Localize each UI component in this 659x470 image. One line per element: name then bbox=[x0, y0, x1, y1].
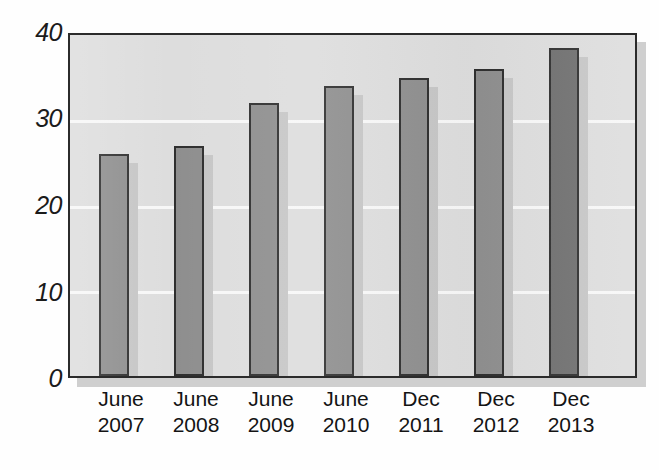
x-axis-label-line1: Dec bbox=[518, 386, 624, 412]
bar-june-2010[interactable] bbox=[324, 86, 354, 376]
x-axis-label-line2: 2013 bbox=[518, 412, 624, 438]
bar-june-2007[interactable] bbox=[99, 154, 129, 376]
y-axis-tick-30: 30 bbox=[16, 106, 62, 131]
x-axis-label-dec-2013: Dec 2013 bbox=[518, 386, 624, 439]
bar-dec-2012[interactable] bbox=[474, 69, 504, 376]
y-axis-tick-0: 0 bbox=[16, 366, 62, 391]
bar-chart: 40 30 20 10 0 June 2007 Jun bbox=[0, 0, 659, 470]
y-axis: 40 30 20 10 0 bbox=[8, 0, 62, 470]
bar-dec-2013[interactable] bbox=[549, 48, 579, 376]
bar-dec-2011[interactable] bbox=[399, 78, 429, 376]
x-axis: June 2007 June 2008 June 2009 June 2010 … bbox=[68, 386, 637, 470]
y-axis-tick-20: 20 bbox=[16, 193, 62, 218]
y-axis-tick-10: 10 bbox=[16, 280, 62, 305]
bar-june-2008[interactable] bbox=[174, 146, 204, 376]
y-axis-tick-40: 40 bbox=[16, 20, 62, 45]
plot-area bbox=[68, 33, 637, 378]
bar-june-2009[interactable] bbox=[249, 103, 279, 376]
